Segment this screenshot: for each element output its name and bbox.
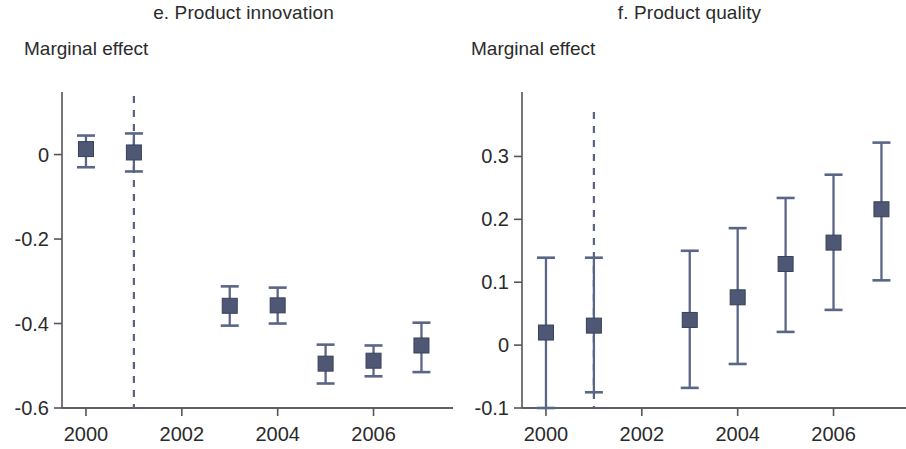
data-point-2007 [412, 323, 430, 372]
x-tick-label: 2006 [351, 423, 396, 445]
data-point-2006 [365, 345, 383, 376]
data-point-2001 [125, 133, 143, 171]
y-tick-label: 0.3 [481, 145, 509, 167]
data-point-2004 [269, 288, 287, 324]
estimate-marker [538, 325, 553, 340]
estimate-marker [318, 356, 333, 371]
estimate-marker [126, 145, 141, 160]
x-tick-label: 2006 [811, 423, 856, 445]
estimate-marker [874, 202, 889, 217]
plot-area-product-innovation: 0-0.2-0.4-0.62000200220042006 [0, 0, 453, 449]
panel-product-innovation: e. Product innovation Marginal effect 0-… [0, 0, 453, 449]
x-tick-label: 2004 [715, 423, 760, 445]
data-point-2001 [585, 258, 603, 393]
estimate-marker [826, 235, 841, 250]
x-tick-label: 2004 [255, 423, 300, 445]
data-point-2007 [872, 143, 890, 281]
y-tick-label: 0 [498, 334, 509, 356]
x-tick-label: 2002 [160, 423, 205, 445]
estimate-marker [778, 256, 793, 271]
figure-root: e. Product innovation Marginal effect 0-… [0, 0, 906, 449]
estimate-marker [586, 318, 601, 333]
x-tick-label: 2002 [620, 423, 665, 445]
plot-svg-product-quality: 0.30.20.10-0.12000200220042006 [453, 0, 906, 449]
estimate-marker [730, 290, 745, 305]
data-point-2005 [317, 345, 335, 384]
estimate-marker [270, 298, 285, 313]
y-tick-label: 0.1 [481, 271, 509, 293]
estimate-marker [222, 298, 237, 313]
x-tick-label: 2000 [64, 423, 109, 445]
plot-area-product-quality: 0.30.20.10-0.12000200220042006 [453, 0, 906, 449]
y-tick-label: -0.4 [15, 313, 49, 335]
data-point-2000 [77, 136, 95, 168]
plot-svg-product-innovation: 0-0.2-0.4-0.62000200220042006 [0, 0, 453, 449]
data-point-2000 [537, 258, 555, 408]
y-tick-label: 0.2 [481, 208, 509, 230]
panel-product-quality: f. Product quality Marginal effect 0.30.… [453, 0, 906, 449]
y-tick-label: -0.6 [15, 397, 49, 419]
data-point-2005 [777, 198, 795, 332]
data-point-2006 [825, 175, 843, 310]
data-point-2004 [729, 228, 747, 364]
y-tick-label: -0.2 [15, 228, 49, 250]
y-tick-label: -0.1 [475, 397, 509, 419]
estimate-marker [366, 353, 381, 368]
data-point-2003 [681, 251, 699, 388]
y-tick-label: 0 [38, 144, 49, 166]
estimate-marker [682, 312, 697, 327]
data-point-2003 [221, 286, 239, 325]
estimate-marker [414, 338, 429, 353]
x-tick-label: 2000 [524, 423, 569, 445]
estimate-marker [78, 142, 93, 157]
